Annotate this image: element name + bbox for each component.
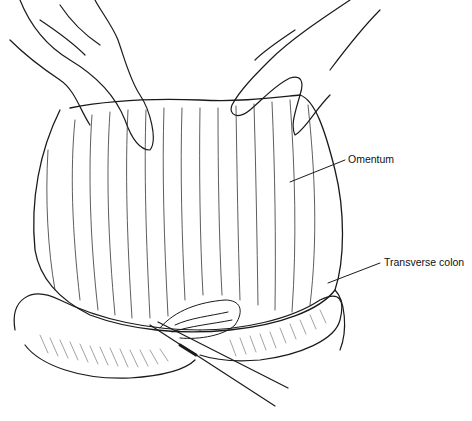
omentum-folds	[47, 100, 315, 318]
left-hand	[10, 0, 153, 150]
mesocolon-opening	[160, 300, 240, 338]
transverse-colon-leader-line	[328, 263, 380, 283]
leader-lines	[290, 160, 380, 283]
illustration	[0, 0, 472, 421]
omentum-label: Omentum	[348, 153, 394, 165]
transverse-colon-label: Transverse colon	[384, 256, 464, 268]
transverse-colon	[14, 290, 344, 378]
surgical-instrument	[150, 322, 288, 406]
omentum-outline	[34, 95, 343, 332]
right-hand	[231, 0, 380, 135]
